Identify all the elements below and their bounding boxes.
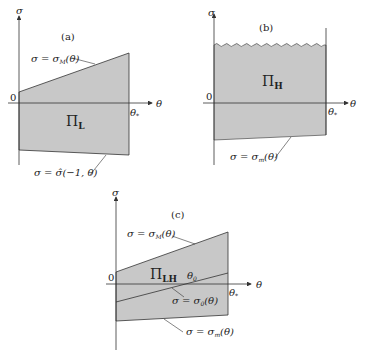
mid-curve-label-c: σ = σ0(θ): [172, 295, 218, 307]
panel-a: (a) σ θ 0 θ* ΠL σ = σM(θ) σ = σ̂(−1, θ): [8, 5, 162, 178]
x-axis-label-b: θ: [350, 98, 356, 109]
origin-a: 0: [10, 92, 16, 103]
origin-c: 0: [108, 272, 114, 283]
y-axis-label-a: σ: [16, 5, 24, 16]
panel-b-tag: (b): [259, 22, 273, 33]
panel-c-tag: (c): [171, 209, 185, 220]
y-axis-label-c: σ: [112, 187, 120, 198]
lower-curve-label-b: σ = σm(θ): [230, 151, 278, 163]
upper-curve-label-c: σ = σM(θ): [127, 228, 175, 240]
svg-text:θ*: θ*: [328, 106, 337, 118]
y-axis-label-b: σ: [208, 7, 216, 18]
lower-curve-label-c: σ = σm(θ): [186, 326, 234, 338]
panel-a-tag: (a): [61, 31, 75, 42]
upper-curve-label-a: σ = σM(θ): [31, 53, 79, 65]
x-axis-label-a: θ: [156, 98, 162, 109]
lower-curve-label-a: σ = σ̂(−1, θ): [34, 167, 97, 178]
figure: (a) σ θ 0 θ* ΠL σ = σM(θ) σ = σ̂(−1, θ) …: [0, 0, 366, 353]
svg-text:θ*: θ*: [229, 287, 238, 299]
svg-text:θ*: θ*: [130, 107, 139, 119]
panel-b: (b) σ θ 0 θ* ΠH σ = σm(θ): [203, 7, 356, 165]
origin-b: 0: [206, 91, 212, 102]
panel-c: (c) σ θ 0 θ* θ0 ΠLH σ = σM(θ) σ = σ0(θ) …: [106, 187, 262, 350]
x-axis-label-c: θ: [256, 279, 262, 290]
